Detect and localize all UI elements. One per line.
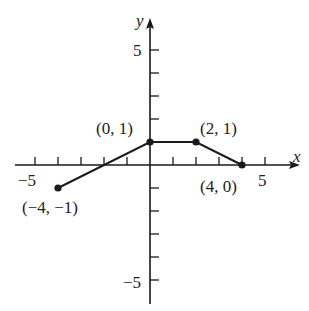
point-label-neg4-neg1: (−4, −1)	[22, 199, 78, 216]
y-axis-label: y	[136, 12, 144, 29]
data-point	[146, 138, 153, 145]
y-tick-label-neg5: −5	[123, 274, 141, 291]
data-point	[192, 138, 199, 145]
plot-area	[0, 0, 309, 311]
data-point	[238, 161, 245, 168]
chart: y x 5 −5 −5 5 (−4, −1) (0, 1) (2, 1) (4,…	[0, 0, 309, 311]
point-label-2-1: (2, 1)	[200, 120, 237, 137]
y-tick-label-5: 5	[133, 42, 142, 59]
x-tick-label-neg5: −5	[18, 172, 36, 189]
x-axis-label: x	[293, 148, 301, 165]
x-tick-label-5: 5	[258, 172, 267, 189]
data-point	[54, 184, 61, 191]
point-label-4-0: (4, 0)	[200, 178, 237, 195]
point-label-0-1: (0, 1)	[96, 120, 133, 137]
